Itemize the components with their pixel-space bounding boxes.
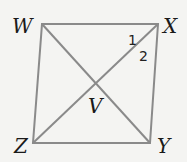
vertex-label-y: Y: [157, 134, 172, 158]
diagram: W X Y Z V 1 2: [0, 0, 187, 162]
vertex-label-z: Z: [13, 134, 29, 158]
vertex-label-w: W: [12, 14, 34, 38]
vertex-label-x: X: [161, 14, 178, 38]
quadrilateral-figure: W X Y Z V 1 2: [0, 0, 187, 162]
angle-label-1: 1: [128, 32, 137, 48]
angle-label-2: 2: [139, 48, 148, 64]
intersection-label-v: V: [88, 94, 105, 118]
diagonal-xz: [33, 24, 158, 143]
